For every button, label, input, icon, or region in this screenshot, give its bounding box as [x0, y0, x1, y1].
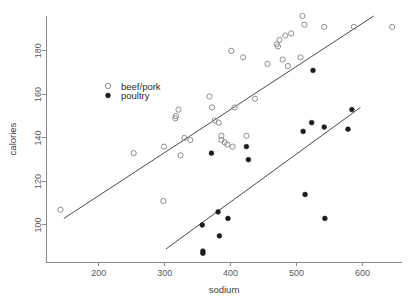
data-point-beef-pork — [252, 96, 257, 101]
data-point-poultry — [246, 157, 251, 162]
data-point-poultry — [217, 233, 222, 238]
y-tick-label: 100 — [33, 217, 43, 232]
data-point-poultry — [322, 216, 327, 221]
data-point-poultry — [309, 120, 314, 125]
data-series-poultry — [200, 68, 354, 256]
legend-marker-filled-circle — [106, 93, 111, 98]
data-point-beef-pork — [230, 144, 235, 149]
data-point-beef-pork — [131, 151, 136, 156]
data-point-poultry — [346, 127, 351, 132]
legend-marker-open-circle — [105, 83, 110, 88]
data-point-beef-pork — [265, 61, 270, 66]
regression-line-poultry — [166, 107, 360, 249]
data-point-beef-pork — [229, 48, 234, 53]
data-point-beef-pork — [244, 133, 249, 138]
data-point-beef-pork — [176, 107, 181, 112]
data-point-beef-pork — [241, 55, 246, 60]
chart-canvas: 100120140160180 200300400500600 sodium c… — [0, 0, 409, 302]
data-point-poultry — [311, 68, 316, 73]
y-axis-title: calories — [7, 122, 18, 155]
y-tick-label: 160 — [33, 87, 43, 102]
data-point-beef-pork — [300, 13, 305, 18]
data-point-poultry — [349, 107, 354, 112]
data-point-beef-pork — [210, 105, 215, 110]
data-point-poultry — [201, 251, 206, 256]
data-point-beef-pork — [207, 94, 212, 99]
scatter-plot-figure: 100120140160180 200300400500600 sodium c… — [0, 0, 409, 302]
data-point-poultry — [303, 192, 308, 197]
x-tick-label: 600 — [355, 268, 370, 278]
regression-line-beef-pork — [64, 16, 374, 218]
data-point-beef-pork — [322, 24, 327, 29]
data-point-beef-pork — [289, 31, 294, 36]
data-point-beef-pork — [280, 57, 285, 62]
y-tick-label: 140 — [33, 130, 43, 145]
data-point-beef-pork — [302, 22, 307, 27]
x-tick-label: 400 — [223, 268, 238, 278]
data-point-poultry — [322, 125, 327, 130]
data-point-poultry — [244, 144, 249, 149]
data-point-poultry — [301, 129, 306, 134]
y-tick-label: 120 — [33, 174, 43, 189]
data-point-beef-pork — [283, 33, 288, 38]
data-point-beef-pork — [285, 63, 290, 68]
chart-legend: beef/porkpoultry — [105, 81, 160, 102]
y-axis-tick-labels: 100120140160180 — [33, 43, 43, 232]
data-point-poultry — [216, 210, 221, 215]
x-tick-label: 300 — [157, 268, 172, 278]
x-tick-label: 500 — [289, 268, 304, 278]
data-series-beef-pork — [58, 13, 395, 212]
legend-label: poultry — [121, 90, 150, 101]
data-point-beef-pork — [390, 24, 395, 29]
data-point-beef-pork — [298, 55, 303, 60]
data-point-beef-pork — [58, 207, 63, 212]
y-tick-label: 180 — [33, 43, 43, 58]
x-axis-title: sodium — [209, 284, 240, 295]
data-point-poultry — [200, 223, 205, 228]
data-point-beef-pork — [161, 144, 166, 149]
data-point-beef-pork — [188, 137, 193, 142]
data-point-beef-pork — [161, 198, 166, 203]
data-point-poultry — [226, 216, 231, 221]
x-tick-label: 200 — [91, 268, 106, 278]
x-axis-tick-labels: 200300400500600 — [91, 268, 370, 278]
data-point-poultry — [209, 151, 214, 156]
data-point-beef-pork — [178, 153, 183, 158]
x-axis-ticks — [99, 262, 363, 266]
data-point-beef-pork — [277, 37, 282, 42]
